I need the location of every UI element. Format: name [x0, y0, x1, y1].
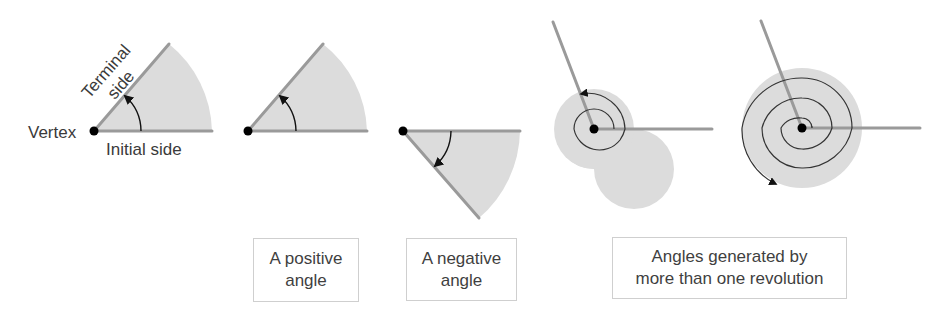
vertex-dot [798, 124, 807, 133]
vertex-label: Vertex [28, 123, 77, 142]
positive-angle-diagram [244, 44, 368, 136]
caption-line: angle [285, 270, 327, 292]
angle-anatomy-diagram: Vertex Initial side Terminal side [28, 41, 212, 159]
caption-line: more than one revolution [635, 268, 823, 290]
angle-wedge [248, 44, 367, 131]
vertex-dot [244, 127, 253, 136]
vertex-dot [590, 125, 599, 134]
caption-line: A negative [422, 248, 501, 270]
caption-positive-angle: A positive angle [253, 238, 359, 302]
caption-line: Angles generated by [652, 246, 808, 268]
two-revolution-spiral-diagram [742, 21, 920, 188]
vertex-dot [90, 127, 99, 136]
initial-side-label: Initial side [106, 140, 182, 159]
negative-angle-diagram [399, 127, 521, 219]
one-revolution-spiral-diagram [553, 22, 712, 209]
caption-line: A positive [270, 248, 343, 270]
caption-negative-angle: A negative angle [406, 238, 517, 301]
vertex-dot [399, 127, 408, 136]
caption-line: angle [441, 270, 483, 292]
angle-wedge [403, 131, 520, 218]
caption-multiple-revolutions: Angles generated by more than one revolu… [612, 237, 847, 299]
